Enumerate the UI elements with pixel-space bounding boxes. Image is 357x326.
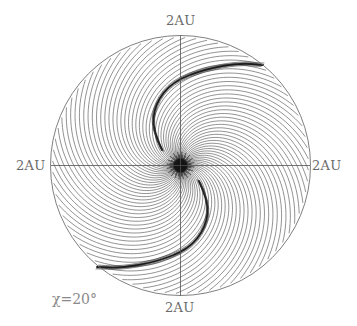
axis-label-top: 2AU (166, 14, 196, 27)
field-line (180, 131, 286, 242)
axis-label-right: 2AU (312, 159, 342, 172)
crescent-upper (153, 64, 263, 150)
polar-plot (0, 0, 357, 326)
tilt-angle-annotation: χ=20° (52, 292, 97, 306)
axis-label-left: 2AU (16, 159, 46, 172)
axis-label-bottom: 2AU (165, 301, 195, 314)
crescent-lower (97, 181, 208, 268)
field-line (75, 88, 181, 199)
